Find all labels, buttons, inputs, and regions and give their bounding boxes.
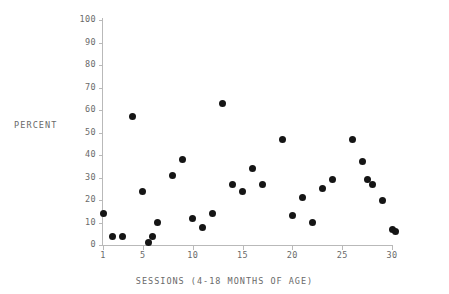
- x-axis-tick-mark: [243, 246, 244, 250]
- x-axis-tick-label: 10: [178, 250, 208, 260]
- data-point: [119, 233, 126, 240]
- x-axis-tick-label: 1: [88, 250, 118, 260]
- data-point: [249, 165, 256, 172]
- y-axis-tick-label: 30: [68, 173, 96, 182]
- x-axis-tick-mark: [103, 246, 104, 250]
- y-axis-tick-label: 20: [68, 195, 96, 204]
- data-point: [100, 210, 107, 217]
- x-axis-tick-mark: [342, 246, 343, 250]
- data-point: [299, 194, 306, 201]
- data-point: [279, 136, 286, 143]
- y-axis-tick-label: 40: [68, 150, 96, 159]
- data-point: [392, 228, 399, 235]
- data-point: [149, 233, 156, 240]
- y-axis-tick-label: 60: [68, 105, 96, 114]
- data-point: [379, 197, 386, 204]
- x-axis-tick-mark: [392, 246, 393, 250]
- data-point: [309, 219, 316, 226]
- x-axis-tick-label: 5: [128, 250, 158, 260]
- y-axis-tick-label: 0: [68, 240, 96, 249]
- x-axis-tick-mark: [292, 246, 293, 250]
- data-point: [359, 158, 366, 165]
- y-axis-tick-label: 80: [68, 60, 96, 69]
- data-point: [139, 188, 146, 195]
- data-point: [199, 224, 206, 231]
- x-axis-tick-label: 15: [228, 250, 258, 260]
- data-point: [259, 181, 266, 188]
- data-point: [229, 181, 236, 188]
- y-axis-tick-label: 70: [68, 83, 96, 92]
- y-axis-tick-label: 50: [68, 128, 96, 137]
- x-axis-tick-label: 20: [277, 250, 307, 260]
- scatter-chart-figure: 0102030405060708090100 151015202530 PERC…: [0, 0, 449, 294]
- data-point: [109, 233, 116, 240]
- y-axis-title: PERCENT: [14, 120, 58, 130]
- x-axis-tick-mark: [143, 246, 144, 250]
- data-point: [349, 136, 356, 143]
- x-axis-tick-mark: [193, 246, 194, 250]
- x-axis-tick-label: 25: [327, 250, 357, 260]
- data-point: [369, 181, 376, 188]
- x-axis-title: SESSIONS (4-18 MONTHS OF AGE): [0, 276, 449, 286]
- data-point: [169, 172, 176, 179]
- data-point: [189, 215, 196, 222]
- y-axis-tick-label: 10: [68, 218, 96, 227]
- x-axis-tick-label: 30: [377, 250, 407, 260]
- data-point: [329, 176, 336, 183]
- plot-area: [103, 20, 392, 245]
- data-point: [319, 185, 326, 192]
- y-axis-tick-label: 90: [68, 38, 96, 47]
- y-axis-tick-label: 100: [68, 15, 96, 24]
- data-point: [239, 188, 246, 195]
- data-point: [219, 100, 226, 107]
